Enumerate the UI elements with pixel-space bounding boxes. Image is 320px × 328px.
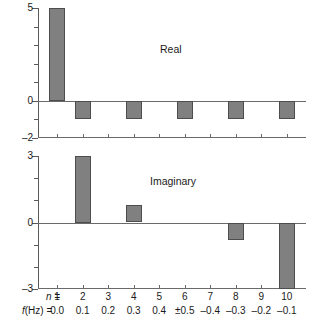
bar	[126, 205, 142, 223]
zero-line-imaginary	[38, 223, 306, 224]
x-tick	[185, 285, 186, 289]
bar	[49, 8, 65, 101]
y-tick-label: 0	[27, 96, 33, 106]
y-tick-minor	[34, 200, 38, 201]
axis-row-frequency: f(Hz) = 0.00.10.20.30.4±0.5–0.4–0.3–0.2–…	[0, 304, 320, 318]
y-tick-label: 3	[27, 151, 33, 161]
axis-label-frequency-value: 0.3	[127, 304, 141, 318]
bar	[228, 223, 244, 241]
axis-label-n-value: 9	[259, 290, 265, 304]
y-tick-minor	[34, 267, 38, 268]
x-tick	[185, 134, 186, 138]
x-tick	[57, 285, 58, 289]
bar	[279, 223, 295, 290]
y-tick-label: 5	[27, 3, 33, 13]
frequency-unit: (Hz) =	[25, 305, 53, 316]
axis-label-frequency-value: 0.4	[152, 304, 166, 318]
axis-label-frequency-value: 0.2	[101, 304, 115, 318]
plot-area-real: 50–2	[38, 8, 306, 138]
bar	[279, 101, 295, 120]
x-tick	[159, 134, 160, 138]
x-tick	[134, 134, 135, 138]
axis-label-frequency-value: –0.4	[201, 304, 220, 318]
bar	[126, 101, 142, 120]
y-tick-minor	[34, 119, 38, 120]
x-tick	[159, 285, 160, 289]
axis-label-frequency-value: –0.3	[226, 304, 245, 318]
x-tick	[261, 134, 262, 138]
x-tick	[108, 134, 109, 138]
x-tick	[261, 285, 262, 289]
chart-panel-real: 50–2 Real	[0, 8, 320, 138]
axis-label-n-value: 2	[80, 290, 86, 304]
y-tick-minor	[34, 82, 38, 83]
axis-label-frequency-value: 0.1	[76, 304, 90, 318]
axis-label-n-value: 4	[131, 290, 137, 304]
x-tick	[108, 285, 109, 289]
bar	[228, 101, 244, 120]
axis-label-n-value: 6	[182, 290, 188, 304]
axis-label-n-value: 8	[233, 290, 239, 304]
x-tick	[287, 134, 288, 138]
y-tick-minor	[34, 178, 38, 179]
bar	[177, 101, 193, 120]
axis-label-n-value: 5	[156, 290, 162, 304]
x-tick	[236, 285, 237, 289]
x-tick	[83, 285, 84, 289]
x-tick	[210, 285, 211, 289]
bar	[75, 156, 91, 223]
axis-label-n-value: 3	[105, 290, 111, 304]
figure-root: 50–2 Real 30–3 Imaginary n = 12345678910…	[0, 0, 320, 328]
x-tick	[83, 134, 84, 138]
y-axis-spine-real	[38, 8, 39, 138]
x-tick	[134, 285, 135, 289]
panel-caption-real: Real	[160, 44, 182, 55]
axis-label-frequency-value: ±0.5	[175, 304, 194, 318]
axis-label-n-value: 7	[208, 290, 214, 304]
x-tick	[236, 134, 237, 138]
y-tick-label: –2	[22, 133, 33, 143]
x-tick	[57, 134, 58, 138]
baseline-imaginary	[38, 288, 306, 289]
axis-label-n-value: 1	[54, 290, 60, 304]
axis-row-frequency-title: f(Hz) =	[22, 304, 52, 318]
axis-label-n-value: 10	[281, 290, 292, 304]
axis-label-frequency-value: –0.1	[277, 304, 296, 318]
y-tick-minor	[34, 245, 38, 246]
x-tick	[210, 134, 211, 138]
y-tick-label: 0	[27, 218, 33, 228]
y-tick-minor	[34, 45, 38, 46]
axis-label-frequency-value: 0.0	[50, 304, 64, 318]
axis-label-frequency-value: –0.2	[252, 304, 271, 318]
axis-label-table: n = 12345678910 f(Hz) = 0.00.10.20.30.4±…	[0, 290, 320, 324]
baseline-real	[38, 137, 306, 138]
axis-row-n: n = 12345678910	[0, 290, 320, 304]
y-tick-minor	[34, 27, 38, 28]
y-tick-minor	[34, 64, 38, 65]
panel-caption-imaginary: Imaginary	[150, 176, 196, 187]
chart-panel-imaginary: 30–3 Imaginary	[0, 156, 320, 289]
bar	[75, 101, 91, 120]
